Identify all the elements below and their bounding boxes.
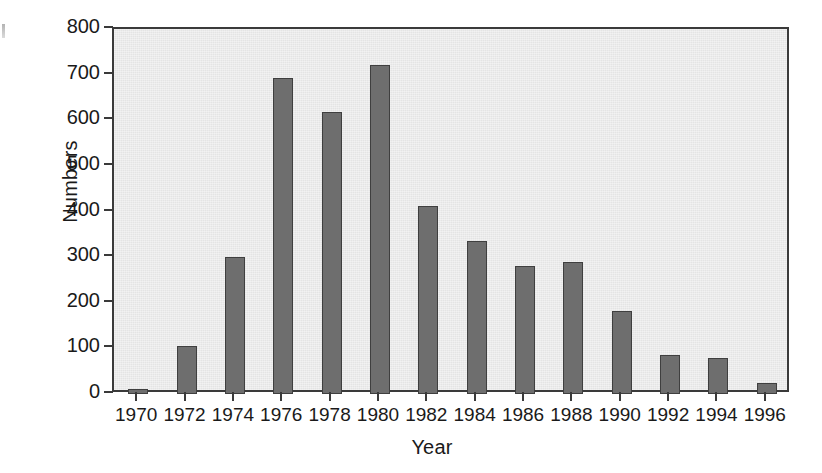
- y-tick-label: 500: [24, 153, 100, 173]
- x-tick-mark: [715, 392, 717, 401]
- x-axis-title: Year: [0, 436, 822, 459]
- y-tick-label: 600: [24, 107, 100, 127]
- bar: [660, 355, 680, 394]
- bar: [128, 389, 148, 394]
- y-tick-label: 200: [24, 290, 100, 310]
- y-tick-label: 400: [24, 199, 100, 219]
- y-tick-label: 100: [24, 335, 100, 355]
- x-tick-label: 1996: [730, 404, 800, 426]
- bar: [225, 257, 245, 394]
- x-tick-mark: [232, 392, 234, 401]
- x-tick-mark: [135, 392, 137, 401]
- y-tick-label: 800: [24, 16, 100, 36]
- bar: [273, 78, 293, 394]
- x-tick-mark: [522, 392, 524, 401]
- bar: [708, 358, 728, 395]
- bar-chart-figure: Numbers 0100200300400500600700800 197019…: [0, 0, 822, 473]
- x-tick-mark: [764, 392, 766, 401]
- bar: [612, 311, 632, 394]
- plot-area: [112, 27, 789, 392]
- bar: [515, 266, 535, 394]
- bar: [563, 262, 583, 394]
- y-tick-label: 0: [24, 381, 100, 401]
- bar: [370, 65, 390, 394]
- bar: [418, 206, 438, 394]
- bar: [322, 112, 342, 394]
- x-tick-mark: [329, 392, 331, 401]
- x-tick-mark: [184, 392, 186, 401]
- y-tick-label: 300: [24, 244, 100, 264]
- x-tick-mark: [570, 392, 572, 401]
- x-tick-mark: [425, 392, 427, 401]
- x-tick-mark: [280, 392, 282, 401]
- y-axis-title: Numbers: [59, 122, 82, 242]
- bar: [467, 241, 487, 394]
- x-axis-title-text: Year: [411, 436, 452, 458]
- x-tick-mark: [667, 392, 669, 401]
- x-tick-mark: [619, 392, 621, 401]
- bar: [757, 383, 777, 394]
- y-tick-label: 700: [24, 62, 100, 82]
- x-tick-mark: [474, 392, 476, 401]
- x-tick-mark: [377, 392, 379, 401]
- bar: [177, 346, 197, 394]
- page-edge-artifact: [2, 24, 5, 38]
